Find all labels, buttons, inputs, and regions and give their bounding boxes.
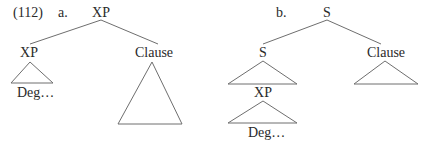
tree-a-right-node: Clause: [135, 46, 173, 60]
triangle-b-xp: [228, 101, 297, 123]
tree-b-right-node: Clause: [367, 46, 405, 60]
edge-b-root-left: [263, 20, 327, 44]
tree-a-left-node: XP: [20, 46, 38, 60]
tree-a-left-content: Deg…: [17, 86, 54, 100]
triangle-b-clause: [354, 61, 418, 84]
tree-b-embedded-content: Deg…: [248, 126, 285, 140]
tree-b-left-node: S: [259, 46, 267, 60]
edge-b-root-right: [327, 20, 381, 44]
tree-b-root-node: S: [323, 6, 331, 20]
tree-b-embedded-node: XP: [254, 86, 272, 100]
triangle-b-s: [228, 61, 297, 84]
tree-edges: [0, 0, 427, 147]
example-number: (112): [13, 6, 43, 20]
triangle-a-xp: [11, 62, 53, 83]
tree-a-root-node: XP: [92, 6, 110, 20]
tree-b-label: b.: [276, 6, 287, 20]
triangle-a-clause: [118, 62, 182, 124]
tree-a-label: a.: [58, 6, 68, 20]
edge-a-root-left: [30, 20, 101, 44]
edge-a-root-right: [101, 20, 158, 44]
